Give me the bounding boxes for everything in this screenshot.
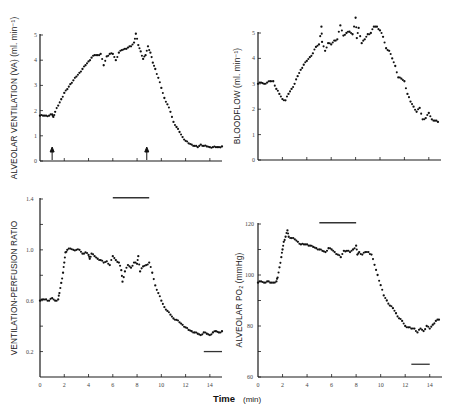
data-point — [277, 90, 279, 92]
data-point — [169, 111, 171, 113]
data-point — [430, 326, 432, 328]
data-point — [112, 255, 114, 257]
data-point — [319, 35, 321, 37]
data-point — [370, 32, 372, 34]
x-tick-label: 6 — [330, 382, 333, 388]
data-point — [284, 239, 286, 241]
data-point — [136, 263, 138, 265]
y-tick-label: 60 — [247, 374, 253, 380]
data-point — [186, 140, 188, 142]
data-point — [142, 58, 144, 60]
arrow-head-icon — [50, 147, 54, 152]
data-point — [392, 307, 394, 309]
data-point — [282, 245, 284, 247]
data-point — [422, 330, 424, 332]
data-point — [87, 254, 89, 256]
x-tick-label: 8 — [136, 382, 139, 388]
y-tick-label: 80 — [247, 323, 253, 329]
data-point — [321, 41, 323, 43]
y-tick-label: 120 — [245, 221, 254, 227]
data-point — [80, 70, 82, 72]
data-point — [406, 93, 408, 95]
data-point — [118, 261, 120, 263]
data-point — [295, 78, 297, 80]
data-point — [59, 287, 61, 289]
y-tick-label: 100 — [245, 272, 254, 278]
data-point — [121, 280, 123, 282]
data-point — [303, 64, 305, 66]
data-point — [437, 121, 439, 123]
data-point — [313, 48, 315, 50]
data-point — [396, 71, 398, 73]
data-point — [290, 88, 292, 90]
data-point — [153, 278, 155, 280]
data-point — [383, 294, 385, 296]
data-point — [400, 318, 402, 320]
y-tick-label: 1.0 — [26, 247, 34, 253]
data-point — [101, 58, 103, 60]
data-point — [388, 50, 390, 52]
data-point — [280, 95, 282, 97]
data-point — [63, 92, 65, 94]
y-tick-label: 4 — [34, 57, 37, 63]
data-point — [113, 257, 115, 259]
data-point — [130, 45, 132, 47]
data-point — [298, 72, 300, 74]
data-point — [365, 36, 367, 38]
data-point — [330, 43, 332, 45]
y-tick-label: 0 — [34, 158, 37, 164]
x-tick-label: 2 — [281, 382, 284, 388]
data-point — [166, 103, 168, 105]
data-point — [56, 107, 58, 109]
data-point — [403, 80, 405, 82]
data-point — [275, 280, 277, 282]
data-point — [52, 116, 54, 118]
y-tick-label: 0.2 — [26, 349, 34, 355]
data-point — [276, 276, 278, 278]
data-point — [130, 267, 132, 269]
data-point — [63, 261, 65, 263]
data-point — [318, 43, 320, 45]
data-point — [415, 111, 417, 113]
data-point — [375, 269, 377, 271]
data-point — [137, 255, 139, 257]
data-point — [344, 34, 346, 36]
data-point — [351, 33, 353, 35]
x-tick-label: 14 — [207, 382, 213, 388]
data-point — [148, 49, 150, 51]
data-point — [310, 55, 312, 57]
y-tick-label: 2 — [252, 106, 255, 112]
data-point — [326, 250, 328, 252]
data-point — [326, 47, 328, 49]
data-point — [394, 65, 396, 67]
data-point — [364, 38, 366, 40]
data-point — [281, 252, 283, 254]
x-tick-label: 2 — [63, 382, 66, 388]
data-point — [62, 96, 64, 98]
data-point — [278, 93, 280, 95]
data-point — [371, 28, 373, 30]
data-point — [411, 103, 413, 105]
x-tick-label: 12 — [402, 382, 408, 388]
data-point — [135, 33, 137, 35]
data-point — [58, 292, 60, 294]
data-point — [420, 113, 422, 115]
data-point — [433, 322, 435, 324]
data-point — [123, 276, 125, 278]
data-point — [367, 251, 369, 253]
data-point — [162, 92, 164, 94]
data-point — [356, 37, 358, 39]
data-point — [156, 73, 158, 75]
x-tick-label: 8 — [355, 382, 358, 388]
data-point — [409, 100, 411, 102]
data-point — [112, 53, 114, 55]
data-point — [53, 114, 55, 116]
data-point — [376, 274, 378, 276]
x-tick-label: 4 — [306, 382, 309, 388]
data-point — [408, 96, 410, 98]
data-point — [77, 74, 79, 76]
data-point — [89, 258, 91, 260]
data-point — [144, 54, 146, 56]
y-tick-label: 0.6 — [26, 298, 34, 304]
data-point — [89, 59, 91, 61]
